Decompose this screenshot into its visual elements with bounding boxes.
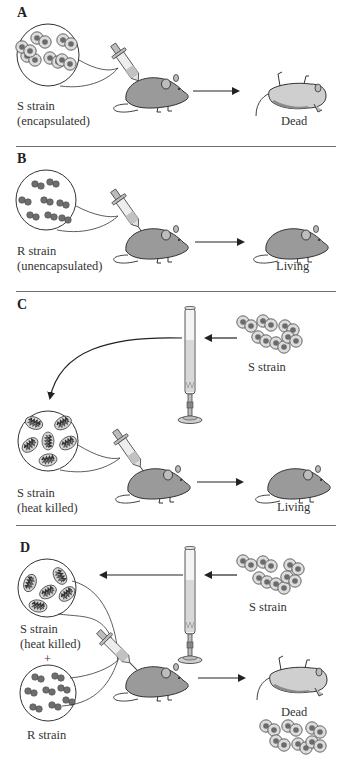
panel-letter-d: D [20,540,30,556]
panel-a-inoculum-label-line2: (encapsulated) [17,114,90,129]
panel-d-inoculum-label-line1: S strain [20,622,58,637]
panel-b-outcome-label: Living [276,259,309,274]
dead-mouse-icon [256,72,326,116]
living-mouse-icon [114,75,189,113]
panel-a-art [16,24,326,116]
panel-d-inoculum-label-line2: (heat killed) [20,637,81,652]
panel-a-inoculum-label-line1: S strain [17,99,55,114]
living-mouse-icon [256,466,331,504]
s-strain-cells [237,315,302,353]
panel-d-r-strain-label: R strain [27,728,66,743]
living-mouse-icon [116,466,191,504]
panel-d-source-label: S strain [249,600,287,615]
panel-letter-c: C [17,297,27,313]
panel-b-inoculum-label-line1: R strain [17,244,56,259]
panel-b-inoculum-label-line2: (unencapsulated) [17,259,102,274]
panel-c-art [18,306,330,503]
panel-c-source-label: S strain [248,360,286,375]
panel-divider [16,291,336,292]
recovered-s-strain-cells [260,720,326,754]
panel-b-art [16,170,328,263]
panel-letter-b: B [17,151,26,167]
panel-letter-a: A [17,5,27,21]
living-mouse-icon [254,226,329,264]
living-mouse-icon [114,226,189,264]
panel-a-outcome-label: Dead [281,114,307,129]
curved-arrow-icon [50,338,182,398]
panel-c-inoculum-label-line1: S strain [17,486,55,501]
living-mouse-icon [114,664,189,702]
panel-d-outcome-label: Dead [281,705,307,720]
panel-divider [16,146,336,147]
panel-c-inoculum-label-line2: (heat killed) [17,501,78,516]
s-strain-cells [237,555,304,594]
panel-divider [16,525,336,526]
bunsen-burner-tube-icon [178,306,202,423]
dead-mouse-icon [257,656,327,700]
panel-d-plus-sign: + [44,652,51,667]
panel-c-outcome-label: Living [277,500,310,515]
